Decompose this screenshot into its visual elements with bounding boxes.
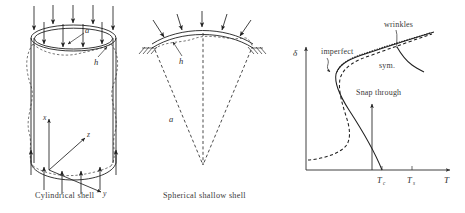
cylinder-radius-leader bbox=[68, 33, 84, 44]
figure-canvas: x z y a h Cylindrical shell bbox=[0, 0, 465, 213]
annotation-wrinkles: wrinkles bbox=[384, 20, 413, 29]
cylinder-deformed-outline bbox=[27, 44, 118, 176]
annotation-imperfect: imperfect bbox=[321, 47, 354, 56]
spherical-shell-caption: Spherical shallow shell bbox=[163, 191, 246, 200]
spherical-load-arrows bbox=[153, 11, 251, 37]
wrinkles-leader-line bbox=[396, 30, 397, 48]
graph-y-axis-label: δ bbox=[293, 48, 298, 58]
annotation-symmetric: sym. bbox=[379, 61, 395, 70]
spherical-thickness-leader bbox=[173, 42, 182, 56]
cylindrical-shell-panel: x z y a h Cylindrical shell bbox=[27, 5, 118, 200]
graph-x-ticks bbox=[382, 166, 412, 170]
spherical-radius-label: a bbox=[169, 114, 173, 124]
cylindrical-shell-caption: Cylindrical shell bbox=[35, 191, 95, 200]
svg-text:s: s bbox=[413, 180, 415, 186]
cylinder-axis-y-label: y bbox=[102, 189, 107, 198]
cylinder-thickness-label: h bbox=[94, 57, 98, 67]
graph-x-axis-label: T bbox=[444, 175, 450, 185]
shell-buckling-figure: x z y a h Cylindrical shell bbox=[0, 0, 465, 213]
cylinder-body bbox=[31, 38, 116, 180]
cylinder-axis-z-label: z bbox=[86, 130, 90, 139]
svg-text:c: c bbox=[383, 180, 386, 186]
spherical-support-left bbox=[139, 47, 157, 54]
cylinder-axis-x-label: x bbox=[42, 113, 47, 122]
annotation-snap-through: Snap through bbox=[356, 88, 401, 97]
cylinder-radius-label: a bbox=[85, 25, 89, 35]
cylinder-coordinate-axes bbox=[49, 119, 101, 192]
spherical-thickness-label: h bbox=[179, 56, 183, 66]
cylinder-bottom-reaction-arrows bbox=[31, 150, 116, 194]
cylinder-top-load-arrows bbox=[34, 5, 113, 47]
load-deflection-graph-panel: δ T T c T s bbox=[293, 20, 450, 186]
graph-tick-label-tc: T c bbox=[377, 175, 386, 186]
graph-tick-label-ts: T s bbox=[407, 175, 415, 186]
spherical-shell-arc bbox=[152, 31, 253, 49]
spherical-radius-lines bbox=[155, 33, 251, 165]
imperfect-leader-arrow bbox=[327, 58, 330, 72]
spherical-deformed-outline bbox=[154, 36, 253, 49]
spherical-shell-panel: h a Spherical shallow shell bbox=[139, 11, 266, 200]
curve-wrinkles-branch bbox=[397, 47, 424, 72]
